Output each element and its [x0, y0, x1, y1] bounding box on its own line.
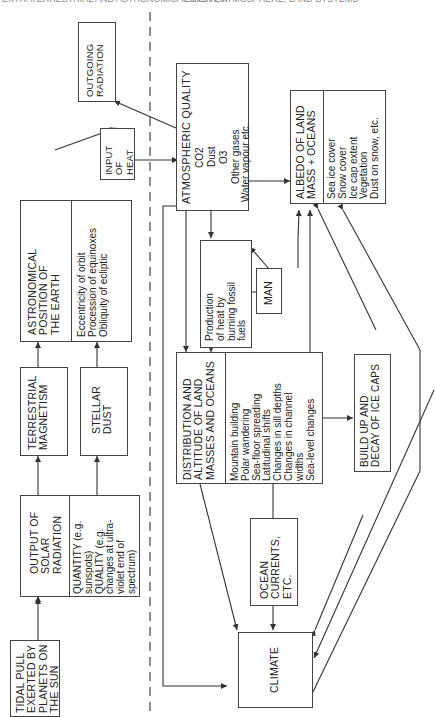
node-atmospheric-quality-item: Dust — [207, 146, 218, 167]
node-divider — [323, 91, 324, 203]
node-atmospheric-quality-item: Water vapour etc. — [241, 123, 252, 202]
node-astronomical-position-title: ASTRONOMICAL POSITION OF THE EARTH — [27, 249, 61, 335]
node-tidal-pull-title: TIDAL PULL EXERTED BY PLANETS ON THE SUN — [15, 644, 60, 713]
node-distribution-detail: Mountain building Polar wandering Sea-fl… — [230, 383, 316, 481]
node-albedo-detail: Sea ice cover Snow cover Ice cap extent … — [327, 117, 381, 199]
node-ocean-currents-title: OCEAN CURRENTS, ETC. — [259, 536, 293, 599]
node-stellar-dust: STELLAR DUST — [80, 367, 128, 456]
node-astronomical-position-detail: Eccentricity of orbit Procession of equi… — [77, 228, 109, 337]
node-solar-output-title: OUTPUT OF SOLAR RADIATION — [29, 512, 63, 574]
node-astronomical-position: ASTRONOMICAL POSITION OF THE EARTH Eccen… — [20, 200, 132, 342]
node-atmospheric-quality: ATMOSPHERIC QUALITY CO2 Dust O3 Other ga… — [176, 63, 249, 211]
node-ice-caps-title: BUILD UP AND DECAY OF ICE CAPS — [360, 364, 382, 467]
node-distribution: DISTRIBUTION AND ALTITUDE OF LAND MASSES… — [176, 352, 323, 484]
node-atmospheric-quality-title: ATMOSPHERIC QUALITY — [181, 70, 193, 204]
node-atmospheric-quality-item: CO2 — [195, 147, 206, 168]
node-man-title: MAN — [263, 281, 274, 305]
node-albedo-title: ALBEDO OF LAND MASS + OCEANS — [295, 105, 318, 199]
node-climate: CLIMATE — [238, 632, 313, 708]
node-tidal-pull: TIDAL PULL EXERTED BY PLANETS ON THE SUN — [10, 640, 60, 717]
node-climate-title: CLIMATE — [269, 647, 280, 693]
node-solar-output-detail: QUANTITY (e.g. sunspots) QUALITY (e.g. c… — [73, 520, 138, 595]
node-outgoing-radiation: OUTGOING RADIATION — [78, 22, 116, 102]
node-ocean-currents: OCEAN CURRENTS, ETC. — [250, 518, 298, 606]
node-divider — [69, 496, 70, 596]
node-divider — [225, 353, 226, 483]
node-albedo: ALBEDO OF LAND MASS + OCEANS Sea ice cov… — [290, 90, 386, 204]
node-outgoing-radiation-title: OUTGOING RADIATION — [85, 44, 106, 97]
node-man: MAN — [256, 268, 282, 314]
node-input-of-heat-title: INPUT OF HEAT — [104, 146, 135, 176]
node-input-of-heat: INPUT OF HEAT — [100, 128, 135, 180]
node-ice-caps: BUILD UP AND DECAY OF ICE CAPS — [354, 354, 391, 472]
node-terrestrial-magnetism: TERRESTRIAL MAGNETISM — [20, 367, 68, 456]
node-atmospheric-quality-item: O3 — [219, 151, 230, 164]
node-stellar-dust-title: STELLAR DUST — [91, 386, 114, 434]
node-fossil-fuels: Production of heat by burning fossil fue… — [200, 240, 252, 348]
node-solar-output: OUTPUT OF SOLAR RADIATION QUANTITY (e.g.… — [20, 495, 140, 597]
node-distribution-title: DISTRIBUTION AND ALTITUDE OF LAND MASSES… — [182, 361, 216, 480]
node-terrestrial-magnetism-title: TERRESTRIAL MAGNETISM — [27, 375, 50, 450]
node-fossil-fuels-title: Production of heat by burning fossil fue… — [205, 282, 248, 341]
node-divider — [71, 201, 72, 341]
